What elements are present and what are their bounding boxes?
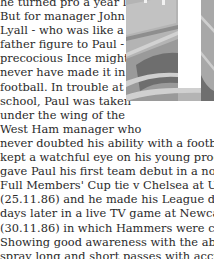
article-text-line: spray long and short passes with accurac… bbox=[0, 249, 214, 259]
article-text-line: gave Paul his first team debut in a nond… bbox=[0, 164, 214, 178]
article-text-line: West Ham manager who bbox=[0, 122, 214, 136]
article-text-line: Showing good awareness with the ability … bbox=[0, 235, 214, 249]
article-page: he turned pro a year later. But for mana… bbox=[0, 0, 214, 259]
article-text-line: kept a watchful eye on his young prodigy… bbox=[0, 150, 214, 164]
article-text-line: days later in a live TV game at Newcastl… bbox=[0, 206, 214, 220]
article-text-line: under the wing of the bbox=[0, 108, 214, 122]
article-text-line: never doubted his ability with a footbal… bbox=[0, 136, 214, 150]
photo-image-icon bbox=[126, 0, 214, 101]
article-text-line: (25.11.86) and he made his League debut … bbox=[0, 192, 214, 206]
article-text-line: Full Members' Cup tie v Chelsea at Upton… bbox=[0, 178, 214, 192]
article-text-line: (30.11.86) in which Hammers were crushed… bbox=[0, 221, 214, 235]
article-photo bbox=[126, 0, 214, 101]
